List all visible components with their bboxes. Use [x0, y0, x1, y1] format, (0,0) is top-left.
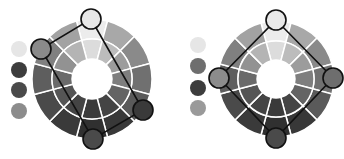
color-swatch — [11, 62, 27, 78]
wheel-center-hole — [72, 59, 112, 99]
color-marker — [209, 68, 229, 88]
color-swatch — [11, 82, 27, 98]
color-marker — [81, 9, 101, 29]
color-swatch — [190, 100, 206, 116]
tetradic-square-scheme — [190, 10, 343, 148]
color-marker — [266, 10, 286, 30]
color-marker — [323, 68, 343, 88]
color-swatch — [190, 37, 206, 53]
color-swatch — [11, 41, 27, 57]
color-marker — [31, 39, 51, 59]
tetradic-rectangle-scheme — [11, 9, 153, 149]
color-swatch — [11, 103, 27, 119]
color-marker — [133, 100, 153, 120]
color-swatch — [190, 58, 206, 74]
color-marker — [266, 128, 286, 148]
color-swatch — [190, 80, 206, 96]
color-wheel-diagrams — [0, 0, 344, 159]
color-marker — [83, 129, 103, 149]
wheel-center-hole — [257, 60, 295, 98]
